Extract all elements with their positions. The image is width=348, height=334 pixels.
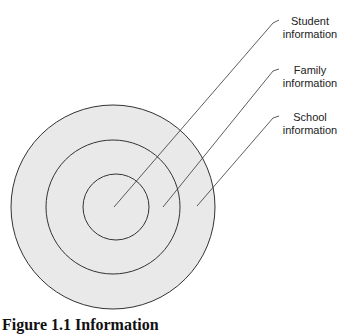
- label-school-information: School information: [270, 111, 348, 137]
- label-family-information: Family information: [270, 64, 348, 90]
- label-family-line2: information: [270, 77, 348, 90]
- label-school-line1: School: [270, 111, 348, 124]
- label-student-line1: Student: [270, 15, 348, 28]
- label-family-line1: Family: [270, 64, 348, 77]
- inner-ring-student: [83, 174, 149, 240]
- label-student-information: Student information: [270, 15, 348, 41]
- figure-caption: Figure 1.1 Information: [2, 316, 159, 334]
- label-school-line2: information: [270, 124, 348, 137]
- label-student-line2: information: [270, 28, 348, 41]
